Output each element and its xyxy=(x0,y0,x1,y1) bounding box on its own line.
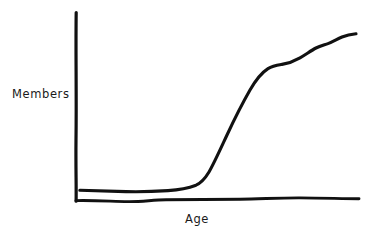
x-axis-label: Age xyxy=(185,212,209,226)
y-axis-label: Members xyxy=(12,87,70,101)
chart-plot-area xyxy=(0,0,375,239)
chart-figure: Members Age xyxy=(0,0,375,239)
x-axis-line xyxy=(76,198,359,202)
members-curve xyxy=(80,34,356,192)
